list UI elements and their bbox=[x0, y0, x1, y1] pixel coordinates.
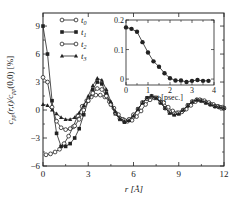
y-tick-label: 0 bbox=[36, 105, 41, 115]
svg-text:t0: t0 bbox=[81, 15, 87, 26]
x-tick-label: 3 bbox=[86, 169, 91, 179]
y-tick-label: 9 bbox=[36, 21, 41, 31]
y-tick-label: −6 bbox=[30, 161, 40, 171]
series-t0 bbox=[44, 93, 224, 157]
inset-frame bbox=[126, 20, 214, 85]
legend-item-t1: t1 bbox=[60, 27, 86, 38]
y-tick-label: 6 bbox=[36, 49, 41, 59]
y-tick-label: 3 bbox=[36, 77, 41, 87]
svg-text:t3: t3 bbox=[81, 51, 87, 62]
inset-y-tick-label: 0 bbox=[120, 75, 124, 84]
legend-item-t3: t3 bbox=[60, 51, 87, 62]
correlation-chart: 036912−6−30369 0123400.10.2 t0t1t2t3 r [… bbox=[0, 0, 242, 211]
inset-y-tick-label: 0.1 bbox=[114, 46, 124, 55]
inset-x-tick-label: 1 bbox=[146, 86, 150, 95]
x-tick-label: 0 bbox=[41, 169, 46, 179]
inset-x-tick-label: 4 bbox=[212, 86, 216, 95]
inset-x-tick-label: 0 bbox=[124, 86, 128, 95]
y-axis-label: cpp(r,t)/cpp(0,0) [%] bbox=[5, 56, 16, 125]
svg-text:t1: t1 bbox=[81, 27, 87, 38]
legend-item-t2: t2 bbox=[60, 39, 86, 50]
inset-y-tick-label: 0.2 bbox=[114, 16, 124, 25]
y-tick-label: −3 bbox=[30, 133, 40, 143]
inset-x-tick-label: 3 bbox=[190, 86, 194, 95]
legend-item-t0: t0 bbox=[60, 15, 86, 26]
x-tick-label: 6 bbox=[131, 169, 136, 179]
legend: t0t1t2t3 bbox=[60, 15, 87, 62]
inset-x-axis-label: t [psec.] bbox=[157, 93, 183, 102]
x-tick-label: 9 bbox=[177, 169, 182, 179]
x-axis-label: r [Å] bbox=[125, 184, 144, 194]
inset-plot: 0123400.10.2 bbox=[114, 16, 216, 95]
x-tick-label: 12 bbox=[220, 169, 229, 179]
svg-text:t2: t2 bbox=[81, 39, 87, 50]
